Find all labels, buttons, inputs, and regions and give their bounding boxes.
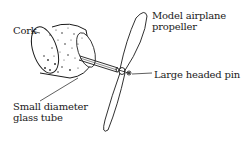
cork-illustration <box>26 23 99 78</box>
label-tube-line2: glass tube <box>13 112 88 123</box>
label-propeller-line2: propeller <box>152 21 226 32</box>
label-propeller-line1: Model airplane <box>152 10 226 21</box>
label-cork-text: Cork <box>13 25 37 36</box>
leader-line-tube <box>40 78 78 101</box>
leader-line-pin <box>132 73 152 74</box>
propeller-diagram: Cork Model airplane propeller Large head… <box>0 0 242 143</box>
label-glass-tube: Small diameter glass tube <box>13 101 88 123</box>
label-propeller: Model airplane propeller <box>152 10 226 32</box>
label-tube-line1: Small diameter <box>13 101 88 112</box>
label-pin: Large headed pin <box>154 69 240 80</box>
label-pin-text: Large headed pin <box>154 69 240 80</box>
label-cork: Cork <box>13 25 37 36</box>
